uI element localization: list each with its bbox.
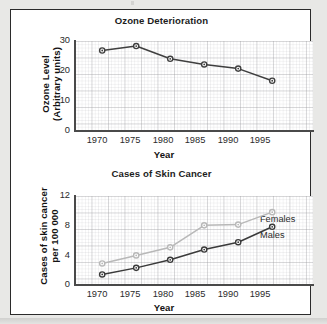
data-point-center [271,211,273,213]
scan-artifact [131,1,134,5]
series-overlay-skin-cancer [11,162,312,314]
data-point-center [203,64,205,66]
data-point-center [169,58,171,60]
data-point-center [271,80,273,82]
data-point-center [135,267,137,269]
series-line-ozone level [102,46,272,81]
data-point-center [135,45,137,47]
data-point-center [203,249,205,251]
data-point-center [169,246,171,248]
series-males [100,224,275,277]
series-line-males [102,227,272,275]
figure-page: Ozone Deterioration Ozone Level (Arbitra… [0,0,327,324]
data-point-center [101,263,103,265]
series-overlay-ozone [11,10,312,162]
data-point-center [203,224,205,226]
series-ozone level [100,43,275,83]
data-point-center [101,50,103,52]
data-point-center [237,68,239,70]
data-point-center [101,274,103,276]
chart-ozone-deterioration: Ozone Deterioration Ozone Level (Arbitra… [11,10,312,162]
data-point-center [271,226,273,228]
chart-cases-of-skin-cancer: Cases of Skin Cancer Cases of skin cance… [11,162,312,314]
data-point-center [169,259,171,261]
data-point-center [237,224,239,226]
page-edge-shadow [0,318,327,324]
data-point-center [237,241,239,243]
data-point-center [135,255,137,257]
figure-frame: Ozone Deterioration Ozone Level (Arbitra… [10,9,311,315]
